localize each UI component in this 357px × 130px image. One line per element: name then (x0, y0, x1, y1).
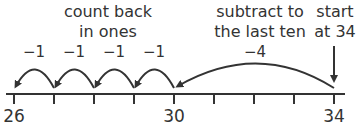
jump-arc-minus-4 (178, 63, 334, 88)
jump-arc-29-28 (96, 69, 134, 88)
tick-label-30: 30 (159, 107, 189, 125)
jump-arc-28-27 (56, 69, 94, 88)
tick-marks (14, 94, 334, 104)
tick-label-26: 26 (0, 107, 29, 125)
tick-label-34: 34 (319, 107, 349, 125)
jump-arc-30-29 (136, 69, 174, 88)
jump-arc-27-26 (16, 69, 54, 88)
